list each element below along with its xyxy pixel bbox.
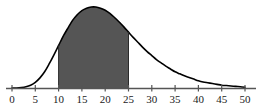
x-tick-label-5: 5 xyxy=(33,94,39,105)
x-tick-label-50: 50 xyxy=(240,94,251,105)
x-tick-label-35: 35 xyxy=(170,94,181,105)
distribution-figure: 05101520253035404550 xyxy=(0,0,264,111)
x-tick-label-25: 25 xyxy=(123,94,134,105)
x-tick-label-30: 30 xyxy=(146,94,157,105)
x-tick-label-45: 45 xyxy=(216,94,227,105)
x-tick-label-20: 20 xyxy=(100,94,111,105)
x-tick-label-15: 15 xyxy=(76,94,87,105)
shaded-region-area xyxy=(59,7,129,88)
x-tick-label-40: 40 xyxy=(193,94,204,105)
x-tick-label-0: 0 xyxy=(9,94,15,105)
x-tick-label-10: 10 xyxy=(53,94,64,105)
